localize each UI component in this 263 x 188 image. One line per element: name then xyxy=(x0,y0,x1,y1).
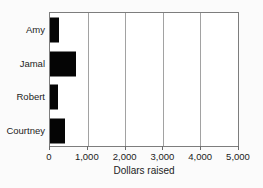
bar-chart-figure: AmyJamalRobertCourtney 01,0002,0003,0004… xyxy=(0,0,263,188)
bar-band xyxy=(50,114,238,148)
bar-amy xyxy=(50,17,59,42)
x-tick-mark xyxy=(200,146,201,150)
x-tick-label: 4,000 xyxy=(188,151,212,162)
bar-band xyxy=(50,81,238,115)
plot-area xyxy=(49,12,239,147)
x-axis-title: Dollars raised xyxy=(49,165,239,176)
category-label-courtney: Courtney xyxy=(6,125,45,136)
x-tick-label: 0 xyxy=(46,151,51,162)
x-tick-label: 3,000 xyxy=(151,151,175,162)
x-tick-mark xyxy=(87,146,88,150)
bar-jamal xyxy=(50,51,76,76)
bar-band xyxy=(50,13,238,47)
x-tick-mark xyxy=(238,146,239,150)
category-label-robert: Robert xyxy=(16,91,45,102)
category-label-amy: Amy xyxy=(26,23,45,34)
category-label-jamal: Jamal xyxy=(20,57,45,68)
bar-band xyxy=(50,47,238,81)
bar-courtney xyxy=(50,119,65,144)
x-tick-label: 1,000 xyxy=(75,151,99,162)
bar-robert xyxy=(50,85,58,110)
x-tick-mark xyxy=(49,146,50,150)
x-tick-label: 2,000 xyxy=(113,151,137,162)
x-tick-mark xyxy=(162,146,163,150)
x-tick-label: 5,000 xyxy=(226,151,250,162)
x-tick-mark xyxy=(125,146,126,150)
